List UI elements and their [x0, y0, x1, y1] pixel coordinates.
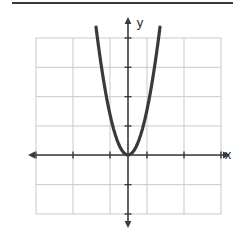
axes	[28, 17, 230, 228]
graph-figure: x y	[0, 0, 249, 244]
figure-screenshot: x y	[0, 0, 249, 244]
coordinate-plane-svg: x y	[0, 0, 249, 244]
x-axis-label: x	[225, 147, 232, 162]
y-axis-label: y	[137, 15, 144, 30]
